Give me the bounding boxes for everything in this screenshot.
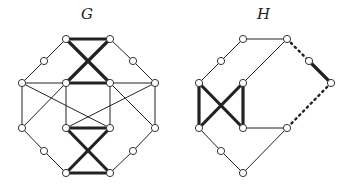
vertex-node bbox=[239, 35, 246, 42]
graph-label-h: H bbox=[257, 5, 270, 23]
vertex-node bbox=[129, 57, 136, 64]
vertex-node bbox=[327, 79, 334, 86]
vertex-node bbox=[62, 79, 69, 86]
vertex-node bbox=[217, 147, 224, 154]
vertex-node bbox=[239, 124, 246, 131]
vertex-node bbox=[106, 169, 113, 176]
vertex-node bbox=[195, 124, 202, 131]
vertex-node bbox=[195, 79, 202, 86]
edge-thin bbox=[221, 39, 243, 61]
vertex-node bbox=[106, 79, 113, 86]
edge-thin bbox=[44, 39, 66, 61]
edge-dotted bbox=[287, 39, 309, 61]
vertex-node bbox=[239, 79, 246, 86]
vertex-node bbox=[18, 79, 25, 86]
vertex-node bbox=[62, 169, 69, 176]
edge-thin bbox=[110, 83, 155, 128]
vertex-node bbox=[62, 124, 69, 131]
vertex-node bbox=[62, 35, 69, 42]
edge-thin bbox=[133, 61, 155, 83]
vertex-node bbox=[129, 147, 136, 154]
vertex-node bbox=[283, 124, 290, 131]
vertex-node bbox=[283, 35, 290, 42]
vertex-node bbox=[40, 57, 47, 64]
edge-thin bbox=[243, 128, 287, 173]
edge-thin bbox=[22, 128, 44, 151]
edge-thin bbox=[110, 39, 133, 61]
vertex-node bbox=[151, 79, 158, 86]
edge-thin bbox=[22, 61, 44, 83]
edge-dotted bbox=[287, 83, 331, 128]
edge-thin bbox=[22, 83, 66, 128]
edge-thin bbox=[199, 61, 221, 83]
vertex-node bbox=[106, 35, 113, 42]
vertex-node bbox=[217, 57, 224, 64]
edge-thin bbox=[110, 151, 133, 173]
edge-thin bbox=[199, 128, 221, 151]
edge-thin bbox=[44, 151, 66, 173]
graph-label-g: G bbox=[81, 5, 93, 23]
edge-thin bbox=[133, 128, 155, 151]
vertex-node bbox=[151, 124, 158, 131]
vertex-node bbox=[106, 124, 113, 131]
edge-thick bbox=[309, 61, 331, 83]
vertex-node bbox=[40, 147, 47, 154]
vertex-node bbox=[305, 57, 312, 64]
vertex-node bbox=[18, 124, 25, 131]
edge-thin bbox=[221, 151, 243, 173]
edge-thin bbox=[243, 39, 287, 83]
graph-diagram bbox=[0, 0, 351, 190]
vertex-node bbox=[239, 169, 246, 176]
